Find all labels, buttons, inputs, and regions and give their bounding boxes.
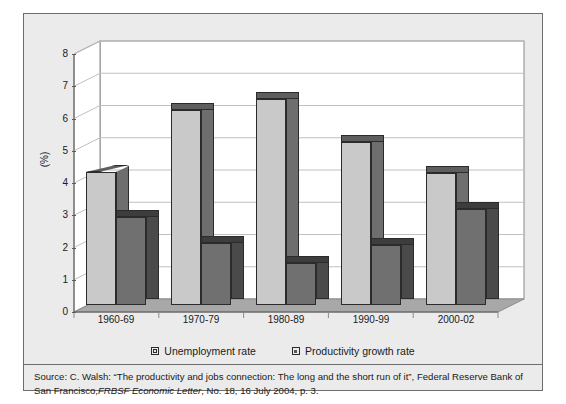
y-tick-label-1: 1 (46, 275, 68, 285)
y-tick-mark-5 (72, 151, 76, 152)
bar-face (341, 142, 371, 305)
chart-legend: Unemployment rate Productivity growth ra… (24, 338, 542, 364)
bar-face (426, 173, 456, 305)
bar-top (286, 256, 329, 263)
bar-face (201, 243, 231, 305)
bar-unemployment-1960-69[interactable] (86, 14, 116, 305)
x-tick-label-1980-89: 1980-89 (246, 314, 326, 325)
y-tick-mark-8 (72, 54, 76, 55)
bar-face (456, 209, 486, 305)
legend-entry-unemployment[interactable]: Unemployment rate (151, 345, 256, 357)
y-tick-mark-1 (72, 280, 76, 281)
y-tick-mark-7 (72, 86, 76, 87)
source-note-publication: FRBSF Economic Letter (98, 385, 201, 396)
bar-side (401, 239, 414, 299)
y-tick-label-0: 0 (46, 307, 68, 317)
bar-unemployment-1980-89[interactable] (256, 14, 286, 305)
legend-entry-productivity[interactable]: Productivity growth rate (292, 345, 415, 357)
bar-side (146, 211, 159, 299)
y-tick-label-6: 6 (46, 114, 68, 124)
bar-top (201, 236, 244, 243)
y-tick-label-4: 4 (46, 178, 68, 188)
source-divider (24, 364, 542, 365)
bar-productivity-1970-79[interactable] (201, 14, 231, 305)
bar-face (116, 217, 146, 305)
bar-top (371, 238, 414, 245)
x-tick-label-1990-99: 1990-99 (331, 314, 411, 325)
bar-unemployment-1990-99[interactable] (341, 14, 371, 305)
hollow-square-icon (151, 347, 159, 355)
bar-unemployment-1970-79[interactable] (171, 14, 201, 305)
source-note-suffix: , No. 18, 16 July 2004, p. 3. (201, 385, 318, 396)
figure-container: (%) 8 7 6 5 4 3 2 1 0 (23, 13, 543, 391)
bar-productivity-1980-89[interactable] (286, 14, 316, 305)
bar-face (171, 110, 201, 305)
y-tick-label-5: 5 (46, 146, 68, 156)
source-note: Source: C. Walsh: “The productivity and … (34, 370, 534, 398)
y-tick-mark-3 (72, 215, 76, 216)
y-tick-mark-6 (72, 119, 76, 120)
bar-productivity-2000-02[interactable] (456, 14, 486, 305)
solid-square-icon (292, 347, 300, 355)
legend-label-unemployment: Unemployment rate (164, 345, 256, 357)
y-tick-label-8: 8 (46, 49, 68, 59)
y-tick-label-7: 7 (46, 81, 68, 91)
x-tick-label-1960-69: 1960-69 (76, 314, 156, 325)
bar-face (371, 245, 401, 305)
bar-productivity-1960-69[interactable] (116, 14, 146, 305)
plot-area: (%) 8 7 6 5 4 3 2 1 0 (24, 14, 542, 334)
bar-side (486, 203, 499, 299)
y-tick-label-3: 3 (46, 210, 68, 220)
bar-top (116, 210, 159, 217)
bar-face (286, 263, 316, 305)
y-tick-label-2: 2 (46, 243, 68, 253)
y-tick-mark-4 (72, 183, 76, 184)
legend-label-productivity: Productivity growth rate (305, 345, 415, 357)
bar-unemployment-2000-02[interactable] (426, 14, 456, 305)
y-tick-mark-2 (72, 248, 76, 249)
bar-side (231, 237, 244, 299)
bar-top (456, 202, 499, 209)
bar-face (86, 172, 116, 305)
x-tick-label-2000-02: 2000-02 (416, 314, 496, 325)
x-tick-label-1970-79: 1970-79 (161, 314, 241, 325)
bar-productivity-1990-99[interactable] (371, 14, 401, 305)
bar-side (316, 257, 329, 299)
y-tick-mark-0 (72, 312, 76, 313)
bar-face (256, 99, 286, 305)
